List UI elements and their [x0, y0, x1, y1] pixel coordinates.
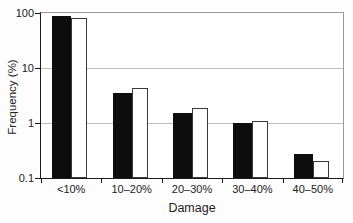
bar-filled-black-bars-20–30%: [173, 113, 192, 178]
bar-chart-figure: 1001010.1 <10%10–20%20–30%30–40%40–50% D…: [0, 0, 353, 223]
y-tick-100: [35, 13, 40, 14]
x-category-label-40–50%: 40–50%: [282, 183, 344, 196]
y-axis-title: Frequency (%): [6, 37, 22, 157]
plot-area: [40, 12, 344, 179]
x-axis-title: Damage: [40, 201, 344, 215]
bar-filled-black-bars-<10%: [52, 16, 71, 179]
bar-open-white-bars-<10%: [71, 18, 87, 178]
x-category-label-20–30%: 20–30%: [161, 183, 223, 196]
y-tick-10: [35, 68, 40, 69]
y-tick-label-0.1: 0.1: [0, 172, 34, 185]
x-category-label-<10%: <10%: [40, 183, 102, 196]
y-tick-1: [35, 123, 40, 124]
bar-filled-black-bars-10–20%: [113, 93, 132, 178]
bar-open-white-bars-20–30%: [192, 108, 208, 178]
bar-open-white-bars-10–20%: [132, 88, 148, 178]
bar-filled-black-bars-40–50%: [294, 154, 313, 178]
x-category-label-10–20%: 10–20%: [101, 183, 163, 196]
bar-open-white-bars-40–50%: [313, 161, 329, 178]
y-tick-0.1: [35, 178, 40, 179]
y-tick-label-100: 100: [0, 7, 34, 20]
bar-open-white-bars-30–40%: [252, 121, 268, 178]
x-category-label-30–40%: 30–40%: [221, 183, 283, 196]
bar-filled-black-bars-30–40%: [233, 123, 252, 178]
